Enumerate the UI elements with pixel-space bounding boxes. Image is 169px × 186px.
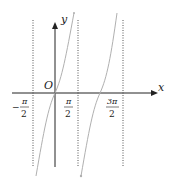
x-axis-label: x xyxy=(158,81,165,94)
tangent-graph: y x O − π 2 π 2 3π 2 xyxy=(0,0,169,186)
x-axis-arrow-icon xyxy=(151,90,158,96)
curve-end-dot xyxy=(73,12,75,14)
y-axis-arrow-icon xyxy=(52,22,58,29)
origin-label: O xyxy=(44,79,53,92)
tick-denominator: 2 xyxy=(65,109,71,119)
tick-denominator: 2 xyxy=(109,109,115,119)
tan-branch-right xyxy=(81,13,117,176)
tick-denominator: 2 xyxy=(21,109,27,119)
y-axis-label: y xyxy=(60,13,68,26)
curve-end-dot xyxy=(80,175,82,177)
tick-numerator: π xyxy=(21,97,28,106)
tick-numerator: π xyxy=(65,97,72,106)
tick-sign-neg: − xyxy=(12,102,20,112)
tick-numerator: 3π xyxy=(107,97,118,106)
